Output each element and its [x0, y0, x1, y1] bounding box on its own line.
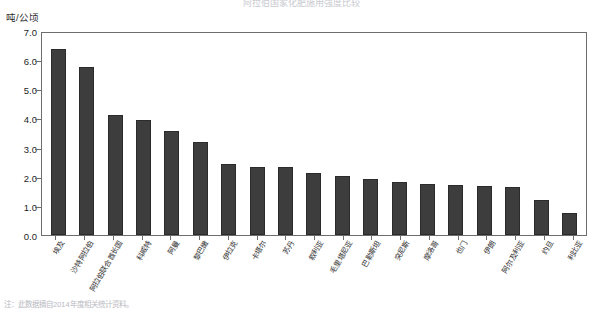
y-axis-tick-mark	[35, 149, 41, 150]
bar[interactable]	[306, 173, 321, 235]
x-axis-tick-label: 伊朗	[483, 240, 497, 256]
bar[interactable]	[136, 120, 151, 235]
y-axis-tick-mark	[35, 178, 41, 179]
bar-chart: 吨/公顷 埃及沙特阿拉伯阿拉伯联合酋长国科威特阿曼黎巴嫩伊拉克卡塔尔苏丹叙利亚毛…	[0, 0, 603, 310]
bar[interactable]	[193, 142, 208, 235]
bar[interactable]	[79, 67, 94, 235]
y-axis-tick-label: 4.0	[3, 114, 37, 125]
bar[interactable]	[221, 164, 236, 235]
x-axis-tick-label: 叙利亚	[307, 240, 325, 262]
x-axis-tick-label: 阿拉伯联合酋长国	[88, 240, 123, 293]
y-axis-tick-label: 5.0	[3, 85, 37, 96]
x-axis-tick-label: 伊拉克	[221, 240, 239, 262]
y-axis-tick-mark	[35, 90, 41, 91]
x-axis-tick-label: 巴勒斯坦	[361, 240, 382, 269]
x-axis-tick-label: 埃及	[52, 240, 66, 256]
bar-series	[42, 33, 586, 235]
bar[interactable]	[278, 167, 293, 235]
x-axis-tick-label: 卡塔尔	[250, 240, 268, 262]
x-axis-tick-label: 阿曼	[167, 240, 181, 256]
x-axis-tick-label: 苏丹	[282, 240, 296, 256]
bar[interactable]	[534, 200, 549, 235]
y-axis-unit-label: 吨/公顷	[6, 10, 39, 24]
x-axis-tick-label: 黎巴嫩	[192, 240, 210, 262]
y-axis-tick-label: 0.0	[3, 231, 37, 242]
bar[interactable]	[505, 187, 520, 235]
y-axis-tick-label: 1.0	[3, 201, 37, 212]
bar[interactable]	[164, 131, 179, 235]
bar[interactable]	[363, 179, 378, 235]
x-axis-tick-label: 科威特	[135, 240, 153, 262]
bar[interactable]	[420, 184, 435, 235]
bar[interactable]	[335, 176, 350, 235]
bar[interactable]	[562, 213, 577, 236]
chart-footnote: 注：此数据摘自2014年度相关统计资料。	[4, 300, 599, 310]
y-axis-tick-label: 6.0	[3, 56, 37, 67]
x-axis-tick-label: 利比亚	[566, 240, 584, 262]
y-axis-tick-label: 7.0	[3, 27, 37, 38]
x-axis-tick-label: 突尼斯	[394, 240, 412, 262]
y-axis-tick-label: 2.0	[3, 172, 37, 183]
y-axis-tick-mark	[35, 119, 41, 120]
x-axis-tick-label: 约旦	[541, 240, 555, 256]
bar[interactable]	[477, 186, 492, 235]
plot-area	[41, 32, 587, 236]
x-axis-tick-label: 摩洛哥	[422, 240, 440, 262]
y-axis-tick-label: 3.0	[3, 143, 37, 154]
bar[interactable]	[51, 49, 66, 235]
bar[interactable]	[448, 185, 463, 236]
y-axis-tick-mark	[35, 207, 41, 208]
x-axis-tick-label: 沙特阿拉伯	[70, 240, 95, 275]
x-axis-tick-label: 也门	[455, 240, 469, 256]
x-axis-labels: 埃及沙特阿拉伯阿拉伯联合酋长国科威特阿曼黎巴嫩伊拉克卡塔尔苏丹叙利亚毛里塔尼亚巴…	[41, 240, 587, 302]
bar[interactable]	[250, 167, 265, 235]
x-axis-tick-label: 毛里塔尼亚	[329, 240, 354, 275]
bar[interactable]	[392, 182, 407, 235]
bar[interactable]	[108, 115, 123, 235]
y-axis-tick-mark	[35, 61, 41, 62]
x-axis-tick-label: 阿尔及利亚	[501, 240, 526, 275]
